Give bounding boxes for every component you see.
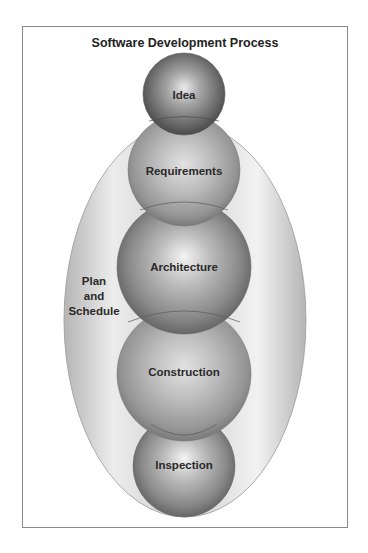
plan-label-line-1: Plan [68, 274, 119, 289]
plan-label-line-3: Schedule [68, 304, 119, 319]
stage-label-inspection: Inspection [155, 459, 213, 471]
stage-label-requirements: Requirements [146, 165, 223, 177]
stage-label-idea: Idea [172, 89, 195, 101]
diagram-title: Software Development Process [22, 36, 348, 50]
stage-label-architecture: Architecture [150, 261, 218, 273]
plan-and-schedule-label: Plan and Schedule [68, 274, 119, 319]
plan-label-line-2: and [68, 289, 119, 304]
stage-label-construction: Construction [148, 366, 220, 378]
